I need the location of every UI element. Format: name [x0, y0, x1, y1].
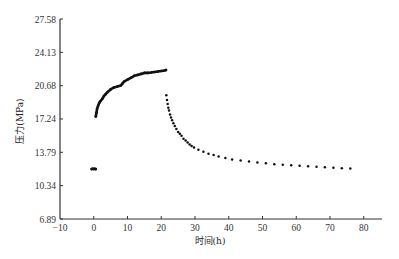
series-initial: [90, 168, 97, 171]
data-point: [324, 166, 327, 169]
data-point: [193, 146, 196, 149]
x-tick-label: 70: [325, 223, 335, 233]
data-point: [290, 164, 293, 167]
data-point: [217, 155, 220, 158]
data-point: [349, 167, 352, 170]
data-point: [140, 73, 143, 76]
data-point: [184, 139, 187, 142]
data-point: [168, 109, 171, 112]
y-tick-label: 27.58: [35, 15, 57, 25]
data-point: [212, 154, 215, 157]
data-point: [231, 158, 234, 161]
x-tick-label: 20: [157, 223, 167, 233]
data-point: [239, 159, 242, 162]
data-point: [175, 128, 178, 131]
y-tick-label: 20.68: [35, 81, 57, 91]
data-point: [150, 71, 153, 74]
data-point: [143, 72, 146, 75]
data-point: [109, 88, 112, 91]
x-tick-label: −10: [53, 223, 68, 233]
data-point: [197, 149, 200, 152]
data-point: [171, 119, 174, 122]
data-point: [256, 161, 259, 164]
data-point: [182, 137, 185, 140]
data-point: [207, 152, 210, 155]
y-axis: 6.8910.3413.7917.2420.6824.1327.58: [35, 15, 63, 225]
data-point: [202, 150, 205, 153]
data-series: [90, 69, 351, 171]
y-tick-label: 13.79: [35, 148, 57, 158]
data-point: [97, 105, 100, 108]
data-point: [265, 162, 268, 165]
data-point: [169, 113, 172, 116]
data-point: [273, 163, 276, 166]
data-point: [282, 164, 285, 167]
y-tick-label: 24.13: [35, 48, 57, 58]
data-point: [170, 116, 173, 119]
x-tick-label: 80: [359, 223, 369, 233]
x-tick-label: 10: [123, 223, 133, 233]
series-buildup: [95, 69, 168, 118]
x-axis: −1001020304050607080: [53, 216, 382, 233]
data-point: [177, 131, 180, 134]
data-point: [166, 99, 169, 102]
data-point: [116, 85, 119, 88]
data-point: [167, 106, 170, 109]
data-point: [153, 71, 156, 74]
x-tick-label: 0: [91, 223, 96, 233]
data-point: [147, 72, 150, 75]
data-point: [248, 160, 251, 163]
data-point: [315, 165, 318, 168]
data-point: [113, 86, 116, 89]
data-point: [126, 78, 129, 81]
data-point: [172, 122, 175, 125]
data-point: [95, 115, 98, 118]
data-point: [165, 94, 168, 97]
data-point: [101, 98, 104, 101]
data-point: [166, 103, 169, 106]
data-point: [179, 133, 182, 136]
x-tick-label: 30: [190, 223, 200, 233]
data-point: [307, 165, 310, 168]
x-tick-label: 50: [258, 223, 268, 233]
data-point: [95, 168, 98, 171]
data-point: [298, 164, 301, 167]
data-point: [190, 145, 193, 148]
data-point: [224, 157, 227, 160]
data-point: [160, 70, 163, 73]
data-point: [157, 70, 160, 73]
data-point: [133, 75, 136, 78]
data-point: [95, 111, 98, 114]
data-point: [123, 80, 126, 83]
data-point: [136, 74, 139, 77]
y-axis-title: 压力(MPa): [14, 98, 25, 143]
data-point: [106, 91, 109, 94]
x-axis-title: 时间(h): [195, 235, 226, 246]
data-point: [121, 82, 124, 85]
data-point: [174, 125, 177, 128]
data-point: [180, 135, 183, 138]
x-tick-label: 60: [292, 223, 302, 233]
data-point: [186, 141, 189, 144]
data-point: [332, 166, 335, 169]
pressure-time-chart: 6.8910.3413.7917.2420.6824.1327.58 −1001…: [0, 0, 399, 259]
data-point: [165, 69, 168, 72]
data-point: [99, 100, 102, 103]
x-tick-label: 40: [224, 223, 234, 233]
y-tick-label: 10.34: [35, 181, 57, 191]
series-falloff: [165, 94, 351, 170]
data-point: [130, 77, 133, 80]
data-point: [96, 107, 99, 110]
data-point: [341, 167, 344, 170]
y-tick-label: 17.24: [35, 114, 57, 124]
